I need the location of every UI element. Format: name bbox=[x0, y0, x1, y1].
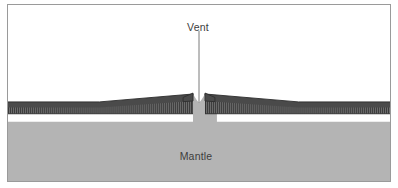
figure-frame: Vent Mantle bbox=[7, 4, 391, 182]
mantle-label: Mantle bbox=[7, 150, 387, 162]
geology-cross-section-figure: Vent Mantle bbox=[0, 0, 398, 188]
vent-label: Vent bbox=[7, 21, 389, 33]
